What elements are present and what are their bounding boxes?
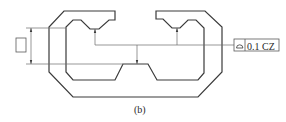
tolerance-value: 0.1 CZ <box>247 41 275 52</box>
figure-caption: (b) <box>134 104 146 116</box>
basic-dimension-box <box>16 38 26 52</box>
diagram-canvas: 0.1 CZ (b) <box>0 0 286 122</box>
part-outline <box>49 11 222 97</box>
arrow-down-icon <box>30 60 32 64</box>
arrow-up-icon <box>30 28 32 32</box>
feature-control-frame: 0.1 CZ <box>234 39 279 52</box>
